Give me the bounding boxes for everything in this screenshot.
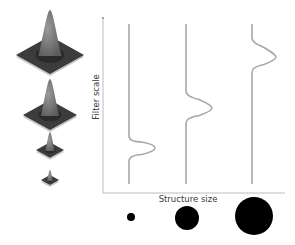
medium-structure-response-curve: [186, 24, 212, 184]
large-structure-response-curve: [252, 24, 276, 184]
medium-structure-circle: [175, 206, 199, 230]
x-axis-label: Structure size: [159, 194, 218, 204]
y-axis-label: Filter scale: [91, 74, 101, 120]
small-structure-circle: [127, 213, 135, 221]
largest-filter-kernel-icon: [16, 10, 84, 76]
large-structure-circle: [235, 197, 273, 235]
small-filter-kernel-icon: [41, 170, 59, 187]
large-filter-kernel-icon: [23, 79, 77, 132]
scale-response-diagram: [0, 0, 295, 245]
medium-filter-kernel-icon: [36, 132, 64, 160]
axis-arrow-dot: [102, 17, 104, 19]
small-structure-response-curve: [129, 24, 155, 184]
filter-kernels: [16, 10, 84, 187]
response-curves: [129, 24, 276, 184]
